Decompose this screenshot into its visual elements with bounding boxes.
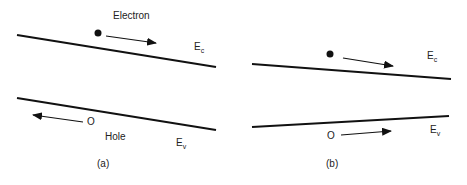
electron-label: Electron	[113, 10, 150, 21]
hole-arrow-a	[33, 115, 83, 122]
electron-arrow-a	[106, 36, 156, 43]
electron-arrow-b	[343, 58, 393, 66]
caption-b: (b)	[326, 158, 338, 169]
valence-band-b	[252, 116, 449, 127]
hole-symbol-a: O	[87, 116, 95, 127]
ev-label-b: Ev	[430, 124, 440, 137]
hole-symbol-b: O	[327, 130, 335, 141]
ec-label-b: Ec	[427, 50, 437, 63]
hole-label: Hole	[105, 131, 126, 142]
ec-label-a: Ec	[194, 41, 204, 54]
conduction-band-a	[17, 35, 216, 67]
ev-label-a: Ev	[176, 137, 186, 150]
conduction-band-b	[252, 64, 451, 79]
caption-a: (a)	[97, 158, 109, 169]
valence-band-a	[17, 98, 216, 130]
electron-dot-a	[95, 30, 102, 37]
band-diagram	[0, 0, 467, 185]
hole-arrow-b	[341, 131, 391, 135]
electron-dot-b	[327, 51, 334, 58]
